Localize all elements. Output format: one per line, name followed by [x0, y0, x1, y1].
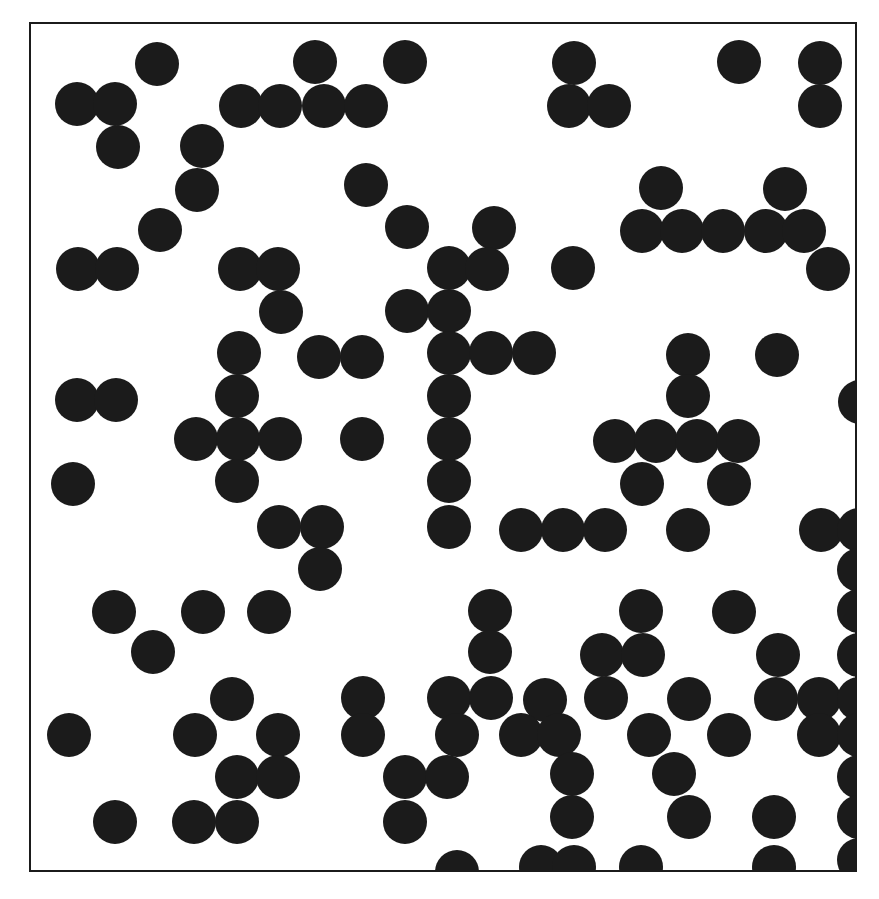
figure-root [0, 0, 879, 899]
plot-frame [29, 22, 857, 872]
